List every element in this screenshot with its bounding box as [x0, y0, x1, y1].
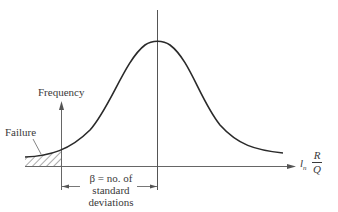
- x-axis-fraction: R Q: [311, 149, 323, 176]
- failure-label: Failure: [5, 127, 36, 138]
- reliability-diagram: [0, 0, 338, 212]
- beta-left-arrowhead-icon: [62, 185, 69, 189]
- fraction-numerator: R: [311, 149, 323, 162]
- beta-label-line3: deviations: [80, 196, 142, 208]
- distribution-curve: [25, 41, 283, 157]
- y-axis-arrow-icon: [59, 101, 64, 110]
- beta-label: β = no. of standard deviations: [80, 172, 142, 208]
- y-axis-label: Frequency: [38, 87, 84, 98]
- beta-label-line2: standard: [80, 184, 142, 196]
- beta-right-arrowhead-icon: [150, 185, 157, 189]
- failure-region: [25, 151, 61, 166]
- x-axis-label-sub: n: [303, 164, 307, 172]
- x-axis-label: ln: [300, 157, 307, 172]
- failure-leader: [33, 139, 41, 154]
- fraction-denominator: Q: [311, 163, 323, 176]
- x-axis-arrow-icon: [287, 164, 296, 169]
- beta-label-line1: β = no. of: [80, 172, 142, 184]
